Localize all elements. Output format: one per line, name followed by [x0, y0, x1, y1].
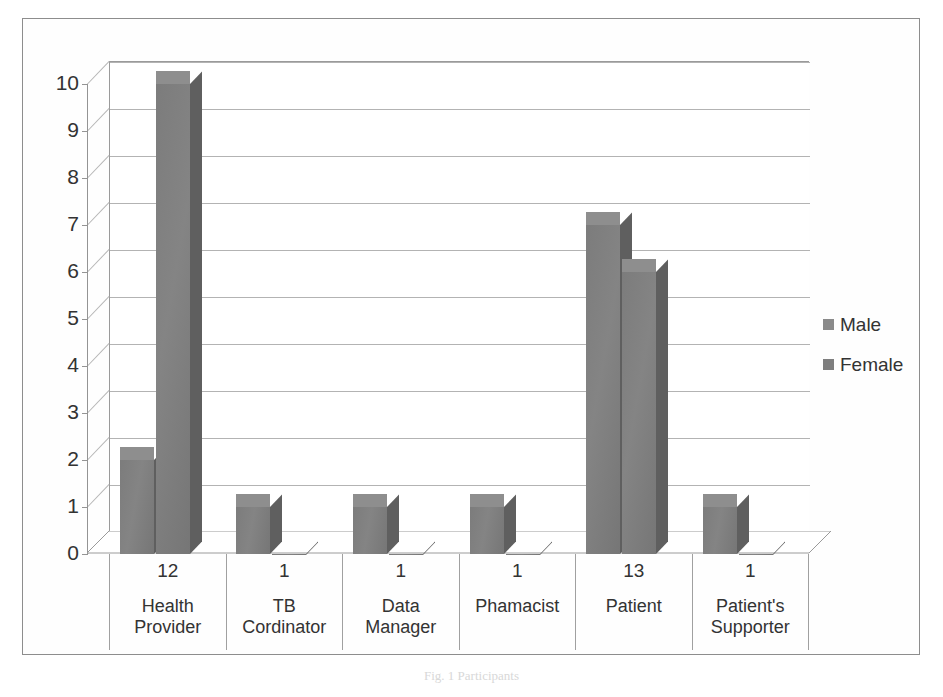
gridline	[110, 438, 810, 439]
category-cell: 12Health Provider	[110, 554, 227, 650]
gridline	[110, 62, 810, 63]
y-axis-tick	[82, 319, 88, 320]
y-axis-tick	[82, 413, 88, 414]
legend-label: Female	[840, 355, 903, 374]
chart-legend: MaleFemale	[823, 315, 915, 395]
category-count: 1	[512, 560, 523, 582]
chart-plot-area: 012345678910 12Health Provider1TB Cordin…	[23, 19, 921, 656]
depth-connector	[87, 202, 110, 226]
category-cell: 13Patient	[576, 554, 693, 650]
y-axis-tick	[82, 507, 88, 508]
depth-connector	[87, 343, 110, 367]
depth-connector	[87, 484, 110, 508]
y-axis-label: 2	[67, 448, 79, 469]
category-label: Patient's Supporter	[693, 596, 809, 638]
category-count: 1	[395, 560, 406, 582]
y-axis-label: 0	[67, 542, 79, 563]
gridline	[110, 109, 810, 110]
y-axis-label: 7	[67, 213, 79, 234]
y-axis-tick	[82, 84, 88, 85]
category-cell: 1Data Manager	[343, 554, 460, 650]
category-axis-table: 12Health Provider1TB Cordinator1Data Man…	[109, 554, 809, 650]
category-cell: 1Patient's Supporter	[693, 554, 809, 650]
category-count: 13	[623, 560, 644, 582]
depth-connector	[87, 155, 110, 179]
y-axis-label: 5	[67, 307, 79, 328]
legend-swatch-icon	[823, 319, 834, 330]
gridline	[110, 250, 810, 251]
depth-connector	[87, 249, 110, 273]
category-label: Data Manager	[343, 596, 459, 638]
y-axis-tick	[82, 460, 88, 461]
y-axis-label: 3	[67, 401, 79, 422]
depth-connector	[87, 296, 110, 320]
legend-item-female[interactable]: Female	[823, 355, 915, 374]
category-label: Patient	[603, 596, 665, 617]
y-axis-tick	[82, 272, 88, 273]
gridline	[110, 297, 810, 298]
depth-connector	[87, 108, 110, 132]
category-label: Phamacist	[472, 596, 562, 617]
gridline	[110, 485, 810, 486]
gridline	[110, 203, 810, 204]
depth-connector	[87, 390, 110, 414]
figure-caption: Fig. 1 Participants	[0, 668, 943, 688]
category-count: 1	[745, 560, 756, 582]
depth-connector	[87, 61, 110, 85]
category-count: 12	[157, 560, 178, 582]
legend-label: Male	[840, 315, 881, 334]
y-axis-tick	[82, 225, 88, 226]
y-axis-label: 6	[67, 260, 79, 281]
category-cell: 1Phamacist	[460, 554, 577, 650]
chart-floor	[87, 531, 831, 554]
legend-swatch-icon	[823, 359, 834, 370]
y-axis-tick	[82, 366, 88, 367]
y-axis-tick	[82, 131, 88, 132]
gridline	[110, 391, 810, 392]
y-axis: 012345678910	[87, 84, 88, 554]
category-label: TB Cordinator	[227, 596, 343, 638]
y-axis-label: 1	[67, 495, 79, 516]
y-axis-label: 4	[67, 354, 79, 375]
category-cell: 1TB Cordinator	[227, 554, 344, 650]
y-axis-tick	[82, 178, 88, 179]
category-count: 1	[279, 560, 290, 582]
y-axis-tick	[82, 554, 88, 555]
legend-item-male[interactable]: Male	[823, 315, 915, 334]
chart-back-wall	[109, 61, 809, 531]
y-axis-label: 10	[56, 72, 79, 93]
category-label: Health Provider	[110, 596, 226, 638]
gridline	[110, 344, 810, 345]
depth-connector	[87, 437, 110, 461]
y-axis-label: 9	[67, 119, 79, 140]
figure-frame: 012345678910 12Health Provider1TB Cordin…	[22, 18, 920, 655]
y-axis-label: 8	[67, 166, 79, 187]
gridline	[110, 156, 810, 157]
